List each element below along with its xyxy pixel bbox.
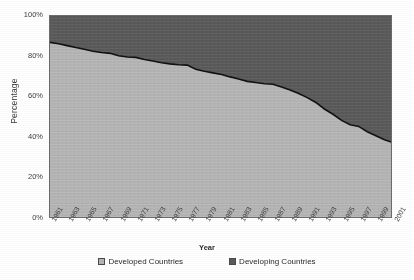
legend-label-developed: Developed Countries	[108, 257, 183, 266]
x-axis-title: Year	[0, 243, 414, 252]
chart-container: Percentage 0%20%40%60%80%100% 1961196319…	[0, 0, 414, 280]
y-tick-0: 0%	[11, 214, 43, 222]
legend-swatch-developed	[98, 258, 105, 265]
legend-label-developing: Developing Countries	[239, 257, 316, 266]
legend-item-developing: Developing Countries	[229, 257, 316, 266]
chart-legend: Developed Countries Developing Countries	[0, 257, 414, 266]
y-tick-80: 80%	[11, 52, 43, 60]
y-tick-20: 20%	[11, 173, 43, 181]
y-tick-100: 100%	[11, 11, 43, 19]
stacked-area-svg	[50, 16, 392, 218]
y-tick-60: 60%	[11, 92, 43, 100]
legend-item-developed: Developed Countries	[98, 257, 183, 266]
plot-area	[49, 15, 392, 218]
y-tick-40: 40%	[11, 133, 43, 141]
legend-swatch-developing	[229, 258, 236, 265]
